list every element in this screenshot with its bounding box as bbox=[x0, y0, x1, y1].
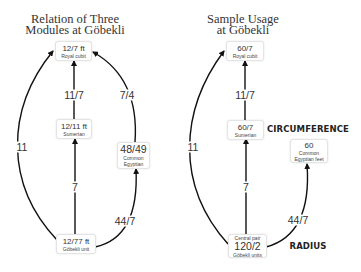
arrow-central-to-egyptian bbox=[266, 164, 308, 247]
edge-label-sumerian-to-royal-right: 11/7 bbox=[234, 90, 256, 101]
node-label-line2: Egyptian feet bbox=[294, 156, 323, 162]
node-common-egyptian-left: 48/49 Common Egyptian bbox=[117, 142, 150, 169]
node-label: Royal cubit bbox=[233, 53, 258, 59]
edge-label-gobekli-to-royal-left: 11 bbox=[16, 142, 29, 153]
node-label: Sumerian bbox=[63, 131, 84, 137]
left-diagram-title: Relation of Three Modules at Göbekli bbox=[20, 14, 130, 36]
left-title-line2: Modules at Göbekli bbox=[20, 25, 130, 36]
edge-label-central-to-egyptian-right: 44/7 bbox=[287, 215, 309, 226]
node-label: Göbekli unit bbox=[63, 246, 89, 252]
edge-label-egyptian-to-royal-left: 7/4 bbox=[119, 90, 136, 101]
arrow-layer bbox=[0, 0, 361, 272]
node-value: 120/2 bbox=[234, 241, 260, 252]
edge-label-central-to-sumerian-right: 7 bbox=[242, 182, 250, 193]
node-royal-cubit-right: 60/7 Royal cubit bbox=[226, 41, 264, 61]
node-label-line2: Egyptian bbox=[124, 161, 143, 167]
node-value: 12/11 ft bbox=[61, 122, 87, 131]
node-value: 12/7 ft bbox=[62, 44, 84, 53]
node-label: Royal cubit bbox=[61, 53, 86, 59]
node-value: 12/77 ft bbox=[63, 237, 90, 246]
node-value: 60 bbox=[305, 141, 314, 150]
node-egyptian-feet-right: 60 Common Egyptian feet bbox=[290, 139, 328, 163]
circumference-label: CIRCUMFERENCE bbox=[267, 124, 349, 134]
node-label: Sumerian bbox=[235, 132, 256, 138]
node-value: 48/49 bbox=[120, 144, 146, 155]
node-value: 60/7 bbox=[238, 123, 254, 132]
node-sumerian-right: 60/7 Sumerian bbox=[227, 120, 264, 140]
edge-label-sumerian-to-royal-left: 11/7 bbox=[63, 90, 85, 101]
radius-label: RADIUS bbox=[290, 241, 327, 251]
node-label: Göbekli units bbox=[233, 252, 262, 258]
node-value: 60/7 bbox=[237, 44, 253, 53]
right-diagram-title: Sample Usage at Göbekli bbox=[193, 14, 293, 36]
node-royal-cubit-left: 12/7 ft Royal cubit bbox=[55, 41, 92, 61]
edge-label-central-to-royal-right: 11 bbox=[187, 142, 200, 153]
node-gobekli-unit-left: 12/77 ft Göbekli unit bbox=[56, 234, 96, 254]
right-title-line2: at Göbekli bbox=[193, 25, 293, 36]
node-sumerian-left: 12/11 ft Sumerian bbox=[56, 119, 92, 139]
edge-label-gobekli-to-sumerian-left: 7 bbox=[71, 182, 79, 193]
edge-label-gobekli-to-egyptian-left: 44/7 bbox=[114, 216, 136, 227]
arrow-gobekli-to-egyptian bbox=[95, 169, 136, 247]
node-central-pair-right: Central pair 120/2 Göbekli units bbox=[228, 234, 267, 258]
